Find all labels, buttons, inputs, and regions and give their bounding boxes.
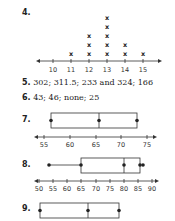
problem-7-label: 7. [22, 115, 31, 124]
problem-6-answer: 43; 46; none; 25 [33, 93, 99, 102]
problem-9-label: 9. [22, 204, 31, 213]
problem-5-answer: 302; 311.5; 233 and 324; 166 [33, 78, 153, 87]
problem-5: 5. 302; 311.5; 233 and 324; 166 [22, 78, 153, 87]
svg-text:60: 60 [63, 185, 71, 193]
svg-text:x: x [105, 41, 110, 49]
svg-text:x: x [87, 32, 92, 40]
svg-text:x: x [105, 32, 110, 40]
problem-6-label: 6. [22, 93, 31, 102]
svg-text:x: x [123, 50, 128, 58]
svg-text:x: x [87, 41, 92, 49]
svg-text:11: 11 [67, 66, 75, 74]
problem-5-label: 5. [22, 78, 31, 87]
svg-text:70: 70 [92, 185, 100, 193]
problem-8-label: 8. [22, 160, 31, 169]
svg-text:14: 14 [121, 66, 129, 74]
svg-text:10: 10 [49, 66, 57, 74]
svg-text:x: x [141, 50, 146, 58]
figures: 10 11 12 13 14 15 x x x x x x x x x x x … [0, 0, 175, 221]
svg-text:75: 75 [143, 141, 151, 149]
svg-text:13: 13 [103, 66, 111, 74]
svg-text:75: 75 [106, 185, 114, 193]
svg-text:80: 80 [120, 185, 128, 193]
svg-text:x: x [105, 23, 110, 31]
box-plot-9 [38, 203, 121, 218]
svg-text:x: x [105, 14, 110, 22]
svg-text:55: 55 [49, 185, 57, 193]
svg-text:x: x [69, 50, 74, 58]
svg-text:50: 50 [35, 185, 43, 193]
svg-text:12: 12 [85, 66, 93, 74]
svg-text:70: 70 [117, 141, 125, 149]
svg-text:15: 15 [139, 66, 147, 74]
svg-text:65: 65 [92, 141, 100, 149]
svg-text:85: 85 [134, 185, 142, 193]
svg-text:x: x [87, 50, 92, 58]
svg-text:x: x [105, 50, 110, 58]
svg-text:x: x [123, 41, 128, 49]
svg-text:60: 60 [66, 141, 74, 149]
svg-text:65: 65 [77, 185, 85, 193]
problem-6: 6. 43; 46; none; 25 [22, 93, 99, 102]
svg-text:90: 90 [148, 185, 156, 193]
box-plot-7: 55 60 65 70 75 [34, 113, 157, 149]
svg-text:55: 55 [40, 141, 48, 149]
dot-plot-4: 10 11 12 13 14 15 x x x x x x x x x x x … [36, 14, 162, 74]
box-plot-8: 50 55 60 65 70 75 80 85 90 [34, 158, 159, 193]
